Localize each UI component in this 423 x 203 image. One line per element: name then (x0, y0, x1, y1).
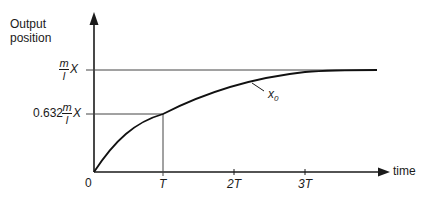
tick-label-3t: 3T (298, 178, 312, 191)
x-axis-label: time (393, 165, 416, 178)
frac-den-mid: l (62, 115, 72, 125)
response-curve (94, 70, 377, 172)
frac-num-mid: m (62, 102, 72, 112)
level-var-mid: X (73, 107, 81, 120)
curve-label: x0 (268, 88, 278, 105)
tick-label-2t: 2T (227, 178, 241, 191)
level-mid-prefix: 0.632 (33, 107, 63, 120)
curve-label-sub: 0 (274, 94, 278, 103)
origin-label: 0 (85, 177, 92, 190)
level-var-top: X (70, 63, 78, 76)
y-axis-label-line1: Output (10, 18, 46, 31)
y-axis-label-line2: position (10, 32, 51, 45)
tick-label-t: T (159, 178, 166, 191)
frac-num-top: m (59, 58, 69, 68)
y-axis-arrow-icon (90, 12, 99, 25)
curve-label-leader (252, 83, 264, 91)
frac-den-top: l (59, 71, 69, 81)
x-axis-arrow-icon (378, 168, 390, 177)
